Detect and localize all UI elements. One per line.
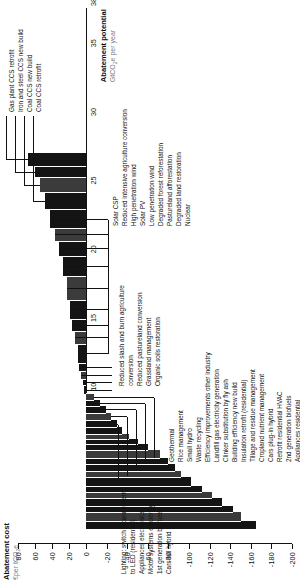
callout-agri-2: Reduced pastureland conversion — [136, 293, 143, 386]
callout-top-2: Coal CCS new build — [26, 55, 33, 112]
callout-centre-6: Clinker substitution by fly ash — [222, 379, 229, 462]
leader-line — [84, 390, 112, 391]
callout-5: Cars full hybrid — [165, 531, 172, 574]
callout-right-0: Solar CSP — [112, 196, 119, 226]
callout-centre-0: Geothermal — [168, 429, 175, 462]
leader-line — [55, 235, 108, 236]
leader-line — [75, 338, 108, 339]
leader-line — [15, 172, 35, 173]
callout-top-1: Iron and steel CCS new build — [17, 29, 24, 112]
callout-right-8: Nuclear — [184, 204, 191, 226]
callout-centre-5: Landfill gas electricity generation — [213, 369, 220, 462]
callout-centre-14: Appliances residential — [294, 400, 300, 462]
leader-line — [63, 266, 108, 267]
leader-line — [59, 249, 108, 250]
leader-line — [145, 404, 146, 464]
leader-line — [118, 425, 119, 482]
callout-top-3: Coal CCS retrofit — [35, 64, 42, 112]
leader-line — [106, 410, 136, 411]
callout-right-3: Solar PV — [139, 201, 146, 226]
leader-line — [6, 116, 7, 160]
leader-line — [67, 288, 108, 289]
callout-centre-1: Rice management — [177, 410, 184, 462]
callout-right-2: High penetration wind — [130, 164, 137, 226]
leader-line — [6, 160, 28, 161]
leader-line — [50, 219, 108, 220]
callout-centre-10: Cropland nutrient management — [258, 374, 265, 462]
leader-line — [108, 220, 109, 230]
callout-4: 1st generation biofuels — [156, 510, 163, 574]
leader-line — [24, 116, 25, 186]
callout-agri-3: Grassland management — [145, 318, 152, 386]
callout-centre-11: Cars plug-in hybrid — [267, 408, 274, 462]
callout-centre-4: Efficiency improvements other industry — [204, 352, 211, 462]
chart-stage: Abatement cost€per tCO2e Abatement poten… — [0, 0, 300, 582]
leader-line — [79, 367, 112, 368]
leader-line — [100, 403, 145, 404]
callout-centre-3: Waste recycling — [195, 417, 202, 462]
leader-line — [127, 417, 128, 476]
plot-area: Abatement cost€per tCO2e Abatement poten… — [0, 0, 300, 582]
leader-line — [70, 310, 108, 311]
callout-right-6: Pastureland afforestation — [166, 155, 173, 226]
callout-1: to LED (residential) — [129, 519, 136, 574]
callout-right-7: Degraded land restoration — [175, 152, 182, 226]
leader-line — [136, 411, 137, 471]
callout-agri-1: conversion — [127, 355, 134, 386]
callout-agri-4: Organic soils restoration — [154, 317, 161, 386]
callout-2: Appliances electronics — [138, 510, 145, 574]
callout-right-4: Low penetration wind — [148, 166, 155, 226]
bar — [86, 393, 94, 401]
leader-line — [15, 116, 16, 173]
leader-line — [72, 325, 108, 326]
callout-0: Lighting: switch incandescent — [120, 491, 127, 574]
callout-3: Motor systems efficiency — [147, 504, 154, 574]
leader-line — [33, 116, 34, 202]
bar-series — [0, 0, 300, 582]
leader-line — [111, 417, 127, 418]
callout-top-0: Gas plant CCS retrofit — [8, 49, 15, 112]
callout-right-5: Degraded forest reforestation — [157, 143, 164, 226]
callout-centre-13: 2nd generation biofuels — [285, 396, 292, 462]
callout-right-1: Reduced intensive agriculture conversion — [121, 109, 128, 226]
bar — [28, 152, 86, 168]
leader-line — [81, 375, 112, 376]
leader-line — [83, 382, 112, 383]
leader-line — [154, 398, 155, 458]
callout-centre-8: Insulation retrofit (residential) — [240, 380, 247, 462]
bar — [40, 176, 86, 193]
callout-centre-9: Tillage and residue management — [249, 369, 256, 462]
leader-line — [108, 230, 109, 354]
callout-centre-2: Small hydro — [186, 428, 193, 462]
bar — [45, 191, 86, 209]
callout-centre-12: Retrofit residential HVAC — [276, 391, 283, 462]
leader-line — [78, 354, 109, 355]
callout-centre-7: Building efficiency new build — [231, 382, 238, 462]
abatement-cost-curve-figure: Abatement cost€per tCO2e Abatement poten… — [0, 0, 300, 582]
callout-agri-0: Reduced slash and burn agriculture — [118, 285, 125, 386]
leader-line — [33, 201, 45, 202]
leader-line — [94, 397, 154, 398]
